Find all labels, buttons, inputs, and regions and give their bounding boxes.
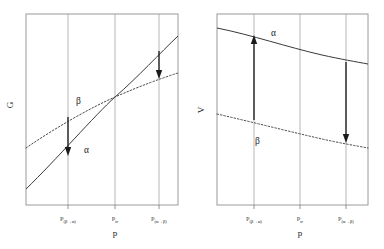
x-axis-label-p: p xyxy=(99,228,131,238)
tick-label-p-beta-to-alpha: p(β→α) xyxy=(232,214,276,221)
phase-label-alpha: α xyxy=(84,145,89,155)
arrow-alpha-to-beta xyxy=(343,62,349,143)
tick-label-sub: (α→β) xyxy=(341,219,353,224)
two-panel-figure: G β α p(β→α) ptr p(α→β) p xyxy=(0,0,384,249)
y-axis-label-V: V xyxy=(196,99,206,121)
curve-alpha-gibbs xyxy=(26,36,178,189)
panel-gibbs-energy: G β α p(β→α) ptr p(α→β) p xyxy=(0,0,192,249)
curve-alpha-volume xyxy=(217,28,368,64)
panel-volume: V α β p(β→α) ptr p(α→β) p xyxy=(192,0,384,249)
phase-label-alpha: α xyxy=(271,28,276,38)
panel-gibbs-svg xyxy=(0,0,192,249)
tick-label-sub: tr xyxy=(300,219,303,224)
x-axis-label-p: p xyxy=(284,228,316,238)
phase-label-beta: β xyxy=(76,96,81,106)
tick-label-p-beta-to-alpha: p(β→α) xyxy=(46,214,90,221)
curve-beta-gibbs xyxy=(26,73,178,148)
tick-label-p-alpha-to-beta: p(α→β) xyxy=(324,214,368,221)
tick-label-sub: tr xyxy=(115,219,118,224)
tick-label-sub: (β→α) xyxy=(63,219,75,224)
arrow-beta-to-alpha xyxy=(251,35,257,120)
tick-label-p-tr: ptr xyxy=(99,214,131,221)
arrow-alpha-to-beta xyxy=(156,51,162,79)
panel-volume-svg xyxy=(192,0,384,249)
y-axis-label-G: G xyxy=(5,94,15,116)
tick-label-p-tr: ptr xyxy=(284,214,316,221)
phase-label-beta: β xyxy=(255,136,260,146)
tick-label-p-alpha-to-beta: p(α→β) xyxy=(137,214,181,221)
tick-label-sub: (β→α) xyxy=(249,219,261,224)
tick-label-sub: (α→β) xyxy=(154,219,166,224)
